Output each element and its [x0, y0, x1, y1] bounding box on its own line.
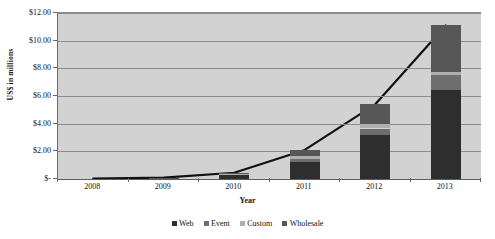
y-axis-tick-mark — [53, 40, 57, 41]
x-axis-tick-label: 2008 — [84, 182, 100, 191]
legend-swatch-icon — [282, 221, 287, 226]
y-axis-tick-mark — [53, 67, 57, 68]
legend-item[interactable]: Wholesale — [282, 219, 323, 228]
x-axis-tick-mark — [410, 178, 411, 182]
y-axis-tick-mark — [53, 123, 57, 124]
legend-item[interactable]: Custom — [240, 219, 272, 228]
y-axis-tick-mark — [53, 95, 57, 96]
x-axis-tick-label: 2011 — [296, 182, 312, 191]
x-axis-tick-mark — [339, 178, 340, 182]
y-axis-tick-label: $2.00 — [0, 146, 51, 155]
x-axis-tick-mark — [198, 178, 199, 182]
x-axis-title: Year — [0, 196, 495, 205]
x-axis-tick-mark — [57, 178, 58, 182]
x-axis-tick-mark — [269, 178, 270, 182]
y-axis-tick-label: $- — [0, 174, 51, 183]
y-axis-tick-label: $12.00 — [0, 8, 51, 17]
legend-item[interactable]: Event — [204, 219, 230, 228]
x-axis-tick-mark — [128, 178, 129, 182]
y-axis-tick-label: $6.00 — [0, 91, 51, 100]
legend-label: Web — [179, 219, 193, 228]
legend-label: Event — [211, 219, 230, 228]
chart-container: US$ in millions $-$2.00$4.00$6.00$8.00$1… — [0, 0, 495, 239]
legend-swatch-icon — [240, 221, 245, 226]
legend-label: Custom — [247, 219, 272, 228]
x-axis-tick-label: 2012 — [366, 182, 382, 191]
y-axis-tick-mark — [53, 12, 57, 13]
y-axis-tick-mark — [53, 150, 57, 151]
legend-swatch-icon — [172, 221, 177, 226]
x-axis-tick-label: 2010 — [225, 182, 241, 191]
legend-label: Wholesale — [290, 219, 324, 228]
chart-legend: WebEventCustomWholesale — [0, 219, 495, 228]
x-axis-tick-mark — [480, 178, 481, 182]
x-axis-tick-label: 2009 — [155, 182, 171, 191]
legend-item[interactable]: Web — [172, 219, 194, 228]
x-axis-tick-label: 2013 — [437, 182, 453, 191]
y-axis-tick-label: $4.00 — [0, 118, 51, 127]
legend-swatch-icon — [204, 221, 209, 226]
y-axis-tick-label: $8.00 — [0, 63, 51, 72]
y-axis-tick-label: $10.00 — [0, 35, 51, 44]
